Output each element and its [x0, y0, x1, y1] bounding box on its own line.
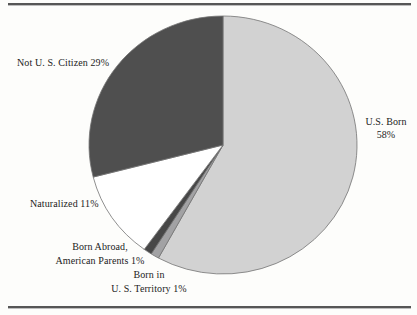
slice-label-us-territory: Born in U. S. Territory 1%: [96, 268, 202, 296]
slice-label-born-abroad-line2: American Parents 1%: [46, 254, 154, 268]
slice-label-us-born-line1: U.S. Born: [360, 115, 412, 128]
slice-label-born-abroad: Born Abroad, American Parents 1%: [46, 240, 154, 268]
slice-label-us-born-line2: 58%: [360, 128, 412, 141]
slice-label-naturalized: Naturalized 11%: [30, 197, 99, 210]
slice-label-us-born: U.S. Born 58%: [360, 115, 412, 141]
citizenship-pie-figure: Not U. S. Citizen 29% U.S. Born 58% Natu…: [0, 0, 417, 315]
slice-label-us-territory-line1: Born in: [96, 268, 202, 282]
slice-label-born-abroad-line1: Born Abroad,: [46, 240, 154, 254]
slice-label-not-us-citizen: Not U. S. Citizen 29%: [17, 56, 109, 69]
slice-label-us-territory-line2: U. S. Territory 1%: [96, 282, 202, 296]
bottom-rule: [8, 306, 411, 309]
